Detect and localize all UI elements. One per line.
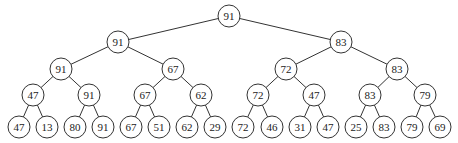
tree-node-l4-13: 83	[373, 116, 395, 138]
svg-text:72: 72	[281, 63, 292, 75]
tree-node-l4-4: 67	[120, 116, 142, 138]
tree-node-l0-0: 91	[218, 5, 240, 27]
tree-node-l4-11: 47	[317, 116, 339, 138]
tree-node-l4-3: 91	[92, 116, 114, 138]
svg-text:83: 83	[336, 36, 348, 48]
svg-text:25: 25	[351, 121, 363, 133]
svg-text:79: 79	[420, 89, 432, 101]
tree-node-l2-0: 91	[50, 58, 72, 80]
tree-node-l4-6: 62	[176, 116, 198, 138]
svg-text:31: 31	[295, 121, 306, 133]
tree-node-l2-1: 67	[162, 58, 184, 80]
tree-nodes: 91 91 83 91 67 72 83 47 91 67 62 72 47 8…	[8, 5, 451, 138]
svg-text:13: 13	[42, 121, 54, 133]
svg-text:47: 47	[28, 89, 40, 101]
svg-text:47: 47	[309, 89, 321, 101]
svg-text:91: 91	[84, 89, 95, 101]
tree-node-l3-4: 72	[247, 84, 269, 106]
tree-node-l4-0: 47	[8, 116, 30, 138]
svg-text:67: 67	[140, 89, 152, 101]
tree-edge	[229, 16, 341, 42]
svg-text:62: 62	[196, 89, 207, 101]
svg-text:83: 83	[365, 89, 377, 101]
tree-node-l4-8: 72	[232, 116, 254, 138]
svg-text:72: 72	[238, 121, 249, 133]
svg-text:47: 47	[14, 121, 26, 133]
svg-text:47: 47	[323, 121, 335, 133]
tree-node-l4-12: 25	[345, 116, 367, 138]
svg-text:79: 79	[407, 121, 419, 133]
svg-text:91: 91	[224, 10, 235, 22]
svg-text:80: 80	[70, 121, 82, 133]
tree-node-l4-14: 79	[401, 116, 423, 138]
svg-text:67: 67	[126, 121, 138, 133]
tree-edges	[19, 16, 440, 127]
tree-node-l4-2: 80	[64, 116, 86, 138]
svg-text:67: 67	[168, 63, 180, 75]
tree-node-l3-7: 79	[414, 84, 436, 106]
tree-node-l4-9: 46	[261, 116, 283, 138]
tree-node-l4-1: 13	[36, 116, 58, 138]
svg-text:91: 91	[98, 121, 109, 133]
tree-node-l3-2: 67	[134, 84, 156, 106]
svg-text:46: 46	[267, 121, 279, 133]
svg-text:29: 29	[210, 121, 222, 133]
tree-node-l4-10: 31	[289, 116, 311, 138]
svg-text:72: 72	[253, 89, 264, 101]
tree-node-l3-3: 62	[190, 84, 212, 106]
svg-text:83: 83	[379, 121, 391, 133]
tree-node-l4-15: 69	[429, 116, 451, 138]
tree-node-l3-1: 91	[78, 84, 100, 106]
tree-node-l2-2: 72	[275, 58, 297, 80]
svg-text:91: 91	[113, 36, 124, 48]
tree-node-l4-5: 51	[148, 116, 170, 138]
svg-text:62: 62	[182, 121, 193, 133]
tree-node-l3-0: 47	[22, 84, 44, 106]
tree-node-l1-1: 83	[330, 31, 352, 53]
tree-node-l3-5: 47	[303, 84, 325, 106]
tree-diagram: 91 91 83 91 67 72 83 47 91 67 62 72 47 8…	[0, 0, 458, 143]
tree-edge	[118, 16, 229, 42]
tree-node-l1-0: 91	[107, 31, 129, 53]
svg-text:69: 69	[435, 121, 447, 133]
svg-text:83: 83	[392, 63, 404, 75]
tree-node-l4-7: 29	[204, 116, 226, 138]
svg-text:51: 51	[154, 121, 165, 133]
tree-node-l3-6: 83	[359, 84, 381, 106]
tree-node-l2-3: 83	[386, 58, 408, 80]
svg-text:91: 91	[56, 63, 67, 75]
